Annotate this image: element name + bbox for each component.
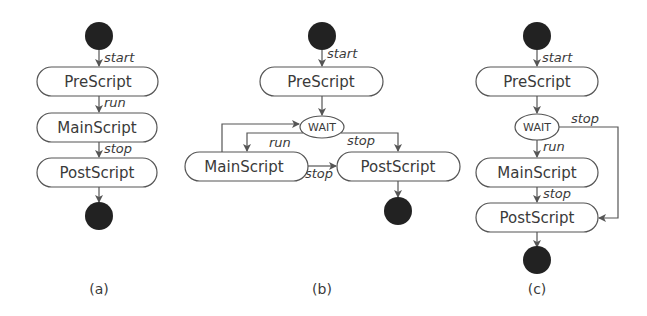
edge-label-stop-wait-b: stop: [347, 133, 375, 148]
final-state-a: [85, 202, 113, 230]
panel-a: start PreScript run MainScript stop Post…: [37, 22, 158, 297]
state-diagrams: start PreScript run MainScript stop Post…: [0, 0, 647, 316]
edge-label-start-b: start: [327, 46, 358, 61]
final-state-b: [384, 197, 412, 225]
panel-b: start PreScript WAIT run stop MainScript…: [185, 22, 460, 297]
caption-b: (b): [312, 281, 332, 297]
edge-label-run-b: run: [269, 135, 291, 150]
node-label-prescript-b: PreScript: [287, 73, 354, 91]
edge-label-stop-main-c: stop: [543, 186, 571, 201]
node-label-mainscript-c: MainScript: [497, 164, 576, 182]
node-label-prescript-a: PreScript: [64, 73, 131, 91]
edge-label-stop-main-b: stop: [305, 166, 333, 181]
caption-a: (a): [89, 281, 109, 297]
node-label-postscript-a: PostScript: [60, 164, 135, 182]
caption-c: (c): [528, 281, 547, 297]
node-label-prescript-c: PreScript: [503, 73, 570, 91]
edge-label-run-a: run: [104, 95, 126, 110]
edge-label-stop-wait-c: stop: [571, 111, 599, 126]
node-label-wait-b: WAIT: [308, 121, 336, 134]
final-state-c: [523, 246, 551, 274]
panel-c: start PreScript WAIT stop run MainScript…: [476, 22, 618, 297]
initial-state-c: [523, 22, 551, 50]
node-label-mainscript-b: MainScript: [204, 158, 283, 176]
initial-state-a: [85, 22, 113, 50]
edge-label-start-c: start: [542, 50, 573, 65]
node-label-mainscript-a: MainScript: [57, 119, 136, 137]
node-label-postscript-c: PostScript: [500, 209, 575, 227]
edge-label-run-c: run: [543, 139, 565, 154]
edge-label-stop-a: stop: [104, 141, 132, 156]
node-label-postscript-b: PostScript: [361, 158, 436, 176]
edge-label-start-a: start: [104, 50, 135, 65]
node-label-wait-c: WAIT: [523, 121, 551, 134]
